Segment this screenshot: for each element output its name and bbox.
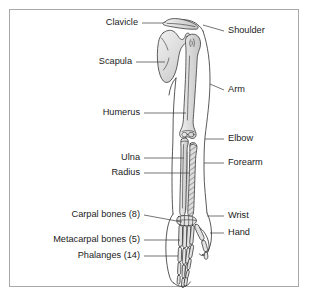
leader-arm xyxy=(210,84,224,90)
diagram-page: Clavicle Scapula Humerus Ulna Radius Car… xyxy=(0,0,310,298)
upper-limb-anatomy-figure: Clavicle Scapula Humerus Ulna Radius Car… xyxy=(0,0,310,298)
label-shoulder: Shoulder xyxy=(228,25,265,35)
scapula-bone xyxy=(157,30,190,82)
label-elbow: Elbow xyxy=(228,133,253,143)
carpal-bones xyxy=(177,216,197,226)
label-metacarpal-bones: Metacarpal bones (5) xyxy=(53,234,140,244)
humerus-bone xyxy=(180,34,201,138)
label-forearm: Forearm xyxy=(228,157,263,167)
label-scapula: Scapula xyxy=(99,56,133,66)
radius-bone xyxy=(188,142,197,216)
label-arm: Arm xyxy=(228,84,245,94)
label-carpal-bones: Carpal bones (8) xyxy=(72,209,140,219)
label-hand: Hand xyxy=(228,227,250,237)
clavicle-bone xyxy=(163,19,198,30)
labels-right: Shoulder Arm Elbow Forearm Wrist Hand xyxy=(228,25,265,237)
label-radius: Radius xyxy=(111,167,140,177)
label-phalanges: Phalanges (14) xyxy=(78,250,140,260)
phalanges-bones xyxy=(177,240,208,287)
label-clavicle: Clavicle xyxy=(106,17,138,27)
leader-shoulder xyxy=(203,25,224,31)
label-ulna: Ulna xyxy=(121,152,141,162)
label-wrist: Wrist xyxy=(228,210,249,220)
leader-carpals xyxy=(144,215,182,222)
labels-left: Clavicle Scapula Humerus Ulna Radius Car… xyxy=(53,17,141,260)
label-humerus: Humerus xyxy=(103,107,141,117)
